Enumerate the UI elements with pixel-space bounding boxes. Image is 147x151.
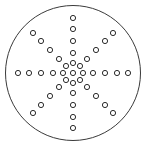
hole-arm-east-3[interactable] xyxy=(114,70,119,75)
hole-arm-east-1[interactable] xyxy=(90,70,95,75)
hole-arm-west-2[interactable] xyxy=(38,70,43,75)
hole-arm-west-1[interactable] xyxy=(50,70,55,75)
hole-center-ring-7[interactable] xyxy=(60,70,65,75)
hole-arm-north-2[interactable] xyxy=(70,38,75,43)
hole-arm-south-2[interactable] xyxy=(70,102,75,107)
board-figure: Circular peg solitaire board xyxy=(0,0,147,151)
hole-arm-southeast-4[interactable] xyxy=(110,110,115,115)
hole-center-ring-5[interactable] xyxy=(70,80,75,85)
hole-arm-southeast-2[interactable] xyxy=(93,93,98,98)
hole-arm-north-3[interactable] xyxy=(70,26,75,31)
hole-arm-southwest-4[interactable] xyxy=(30,110,35,115)
hole-arm-east-2[interactable] xyxy=(102,70,107,75)
hole-center-ring-6[interactable] xyxy=(63,77,68,82)
hole-arm-south-1[interactable] xyxy=(70,90,75,95)
hole-arm-northwest-3[interactable] xyxy=(38,38,43,43)
hole-center-ring-8[interactable] xyxy=(63,63,68,68)
hole-arm-northeast-1[interactable] xyxy=(84,56,89,61)
hole-arm-northwest-4[interactable] xyxy=(30,30,35,35)
hole-arm-southwest-1[interactable] xyxy=(56,84,61,89)
board-diagram xyxy=(0,0,147,151)
hole-arm-west-3[interactable] xyxy=(26,70,31,75)
hole-arm-southwest-2[interactable] xyxy=(47,93,52,98)
hole-center-ring-1[interactable] xyxy=(70,60,75,65)
hole-arm-southeast-1[interactable] xyxy=(84,84,89,89)
hole-arm-northwest-1[interactable] xyxy=(56,56,61,61)
hole-arm-north-4[interactable] xyxy=(70,15,75,20)
hole-center-ring-2[interactable] xyxy=(77,63,82,68)
hole-arm-south-3[interactable] xyxy=(70,114,75,119)
hole-center-ring-4[interactable] xyxy=(77,77,82,82)
hole-arm-northwest-2[interactable] xyxy=(47,47,52,52)
hole-arm-southeast-3[interactable] xyxy=(102,102,107,107)
hole-arm-north-1[interactable] xyxy=(70,50,75,55)
hole-arm-northeast-3[interactable] xyxy=(102,38,107,43)
hole-arm-south-4[interactable] xyxy=(70,125,75,130)
hole-arm-southwest-3[interactable] xyxy=(38,102,43,107)
hole-center-ring-3[interactable] xyxy=(80,70,85,75)
hole-group-center-hub xyxy=(70,70,75,75)
hole-arm-east-4[interactable] xyxy=(125,70,130,75)
hole-arm-west-4[interactable] xyxy=(15,70,20,75)
hole-arm-northeast-2[interactable] xyxy=(93,47,98,52)
hole-arm-northeast-4[interactable] xyxy=(110,30,115,35)
hole-center-hub-1[interactable] xyxy=(70,70,75,75)
